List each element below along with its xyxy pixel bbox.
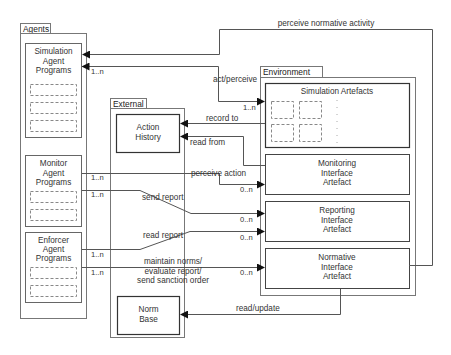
- monitoring-interface-artefact[interactable]: Monitoring Interface Artefact: [266, 155, 410, 195]
- edge-read-report: read report 1..n 0..n: [82, 231, 264, 259]
- svg-text:record to: record to: [206, 114, 239, 123]
- norm-base[interactable]: Norm Base: [118, 297, 180, 335]
- enforcer-agent-programs[interactable]: Enforcer Agent Programs: [26, 233, 82, 303]
- svg-text:act/perceive: act/perceive: [213, 75, 258, 84]
- external-tab-label: External: [113, 99, 144, 109]
- svg-text:History: History: [135, 133, 161, 142]
- svg-text:send sanction order: send sanction order: [137, 276, 209, 285]
- svg-text:1..n: 1..n: [91, 250, 104, 259]
- svg-text:Artefact: Artefact: [323, 272, 352, 281]
- svg-text:Simulation Artefacts: Simulation Artefacts: [301, 87, 373, 96]
- svg-text:Simulation: Simulation: [34, 47, 73, 56]
- edge-read-from: read from: [181, 137, 265, 166]
- svg-text:read from: read from: [190, 138, 225, 147]
- svg-text:Programs: Programs: [36, 66, 72, 75]
- agents-tab-label: Agents: [23, 24, 49, 34]
- architecture-diagram: Agents Simulation Agent Programs Monitor…: [0, 0, 451, 355]
- normative-interface-artefact[interactable]: Normative Interface Artefact: [266, 249, 410, 289]
- svg-text:Monitoring: Monitoring: [318, 159, 357, 168]
- svg-text:read/update: read/update: [236, 304, 280, 313]
- svg-text:Enforcer: Enforcer: [38, 236, 69, 245]
- svg-text:1..n: 1..n: [91, 173, 104, 182]
- svg-text:Programs: Programs: [36, 178, 72, 187]
- svg-text:1..n: 1..n: [91, 190, 104, 199]
- svg-text:Base: Base: [139, 315, 158, 324]
- edge-act-perceive: act/perceive 1..n 1..n: [83, 67, 265, 113]
- svg-text:0..n: 0..n: [240, 268, 253, 277]
- svg-text:1..n: 1..n: [91, 268, 104, 277]
- edge-send-report: send report 1..n 0..n: [82, 190, 264, 224]
- svg-text:Action: Action: [137, 123, 160, 132]
- svg-text:Interface: Interface: [321, 216, 353, 225]
- simulation-agent-programs[interactable]: Simulation Agent Programs: [26, 44, 82, 138]
- svg-text:0..n: 0..n: [240, 185, 253, 194]
- svg-text:Interface: Interface: [321, 263, 353, 272]
- svg-text:Programs: Programs: [36, 254, 72, 263]
- svg-text:Agent: Agent: [43, 245, 65, 254]
- svg-text:1..n: 1..n: [91, 67, 104, 76]
- svg-text:maintain norms/: maintain norms/: [144, 257, 203, 266]
- svg-text:evaluate report/: evaluate report/: [145, 267, 203, 276]
- svg-text:Agent: Agent: [43, 169, 65, 178]
- svg-text:Agent: Agent: [43, 57, 65, 66]
- svg-text:Monitor: Monitor: [40, 159, 68, 168]
- svg-text:0..n: 0..n: [240, 233, 253, 242]
- svg-text:1..n: 1..n: [243, 103, 256, 112]
- svg-text:Normative: Normative: [318, 253, 356, 262]
- environment-tab-label: Environment: [263, 67, 311, 77]
- svg-text:Artefact: Artefact: [323, 178, 352, 187]
- svg-text:0..n: 0..n: [240, 215, 253, 224]
- svg-text:Norm: Norm: [138, 305, 158, 314]
- reporting-interface-artefact[interactable]: Reporting Interface Artefact: [266, 202, 410, 242]
- svg-text:perceive normative activity: perceive normative activity: [278, 19, 375, 28]
- svg-text:Interface: Interface: [321, 169, 353, 178]
- edge-maintain-norms: maintain norms/ evaluate report/ send sa…: [82, 257, 264, 285]
- edge-record-to: record to: [181, 114, 265, 124]
- action-history[interactable]: Action History: [117, 115, 180, 153]
- svg-text:Reporting: Reporting: [319, 206, 355, 215]
- simulation-artefacts[interactable]: Simulation Artefacts: [266, 84, 410, 148]
- svg-text:perceive action: perceive action: [191, 169, 247, 178]
- monitor-agent-programs[interactable]: Monitor Agent Programs: [26, 156, 82, 227]
- svg-text:Artefact: Artefact: [323, 225, 352, 234]
- svg-text:read report: read report: [143, 231, 184, 240]
- svg-text:send report: send report: [142, 193, 184, 202]
